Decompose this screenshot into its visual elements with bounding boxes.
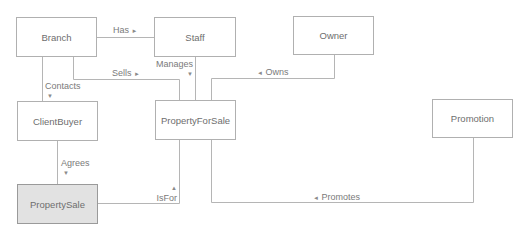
relationship-promotes: ◄ Promotes	[313, 192, 360, 203]
owns-label: Owns	[265, 67, 288, 77]
entity-propertyforsale[interactable]: PropertyForSale	[155, 100, 236, 140]
entity-branch[interactable]: Branch	[16, 17, 97, 57]
entity-propertysale-label: PropertySale	[30, 199, 85, 210]
entity-promotion[interactable]: Promotion	[432, 99, 513, 138]
relationship-has: Has ►	[113, 25, 137, 36]
arrow-down-icon: ▼	[61, 168, 90, 178]
manages-label: Manages	[156, 59, 193, 69]
entity-propertysale[interactable]: PropertySale	[17, 184, 98, 224]
entity-owner-label: Owner	[320, 30, 348, 41]
arrow-left-icon: ◄	[257, 70, 263, 76]
entity-owner[interactable]: Owner	[293, 16, 374, 55]
relationship-contacts: Contacts ▼	[45, 81, 81, 101]
isfor-label: IsFor	[150, 193, 177, 203]
er-diagram: Branch Staff Owner ClientBuyer PropertyF…	[0, 0, 529, 237]
arrow-right-icon: ►	[132, 28, 138, 34]
relationship-agrees: Agrees ▼	[61, 158, 90, 178]
arrow-right-icon: ►	[134, 71, 140, 77]
promotes-label: Promotes	[321, 192, 360, 202]
sells-label: Sells	[112, 68, 132, 78]
relationship-isfor: ▲ IsFor	[150, 183, 177, 203]
entity-clientbuyer[interactable]: ClientBuyer	[17, 101, 98, 141]
arrow-down-icon: ▼	[156, 69, 193, 79]
entity-staff[interactable]: Staff	[154, 17, 236, 57]
arrow-up-icon: ▲	[150, 183, 177, 193]
entity-propertyforsale-label: PropertyForSale	[161, 115, 230, 126]
relationship-owns: ◄ Owns	[257, 67, 288, 78]
has-label: Has	[113, 25, 129, 35]
entity-staff-label: Staff	[185, 32, 204, 43]
arrow-left-icon: ◄	[313, 195, 319, 201]
relationship-sells: Sells ►	[112, 68, 140, 79]
entity-branch-label: Branch	[41, 32, 71, 43]
entity-promotion-label: Promotion	[451, 113, 494, 124]
arrow-down-icon: ▼	[45, 91, 81, 101]
contacts-label: Contacts	[45, 81, 81, 91]
entity-clientbuyer-label: ClientBuyer	[33, 116, 82, 127]
agrees-label: Agrees	[61, 158, 90, 168]
relationship-manages: Manages ▼	[156, 59, 193, 79]
